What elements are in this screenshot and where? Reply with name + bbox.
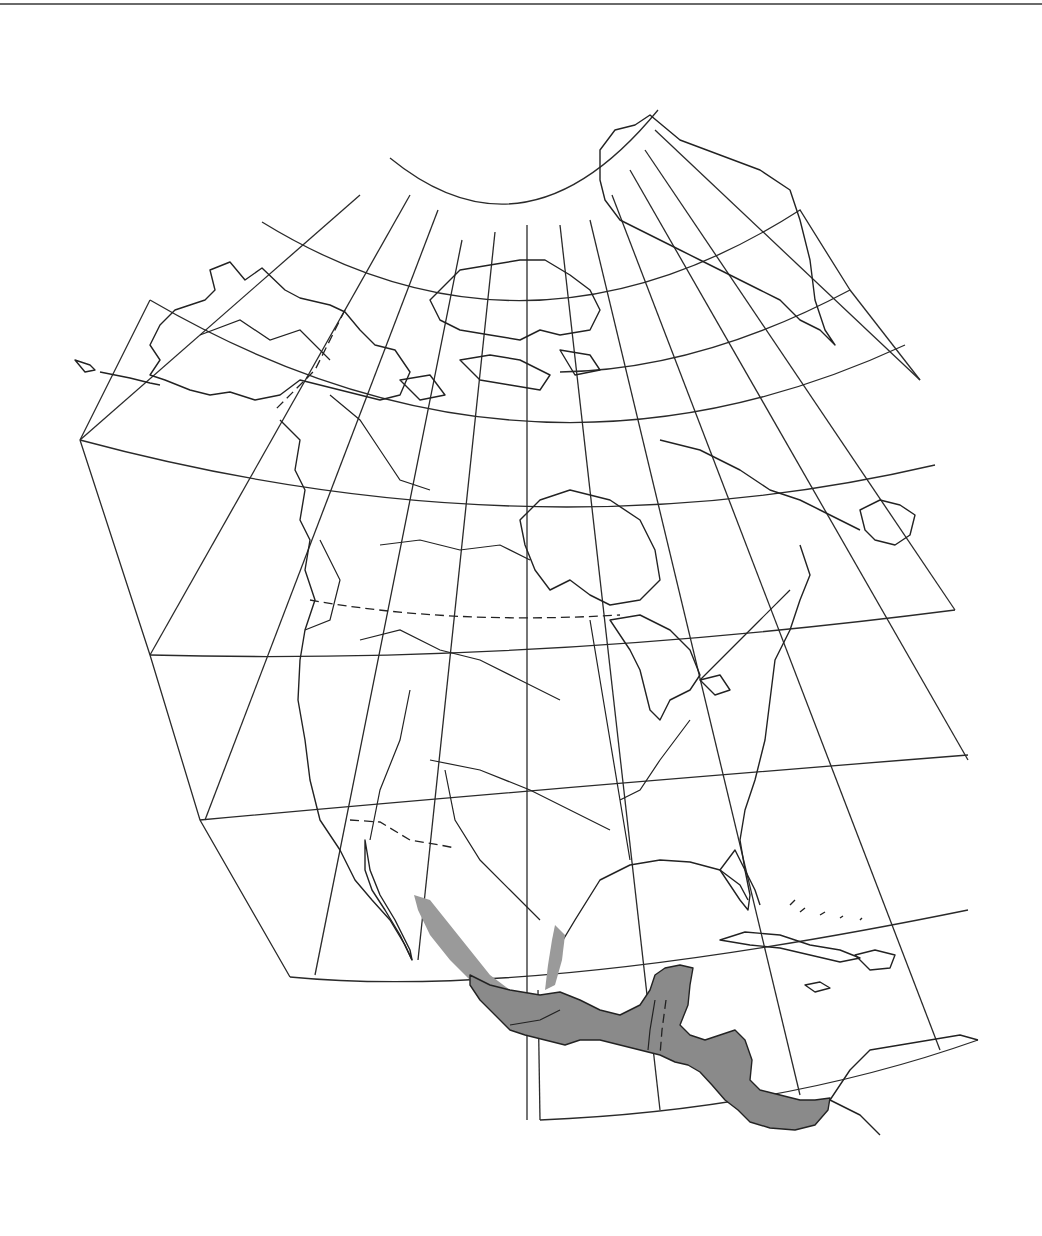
meridian bbox=[150, 195, 410, 655]
greenland bbox=[600, 115, 835, 345]
alaska-coast bbox=[150, 262, 410, 400]
meridian bbox=[315, 240, 462, 975]
meridian bbox=[80, 195, 360, 440]
us-canada-border bbox=[310, 600, 620, 618]
arctic-islands bbox=[400, 350, 600, 400]
range-west-coast-strip bbox=[414, 895, 510, 990]
st-lawrence-river bbox=[700, 590, 790, 680]
parallel-arc bbox=[200, 755, 968, 820]
mississippi-river bbox=[590, 620, 630, 860]
labrador-coast bbox=[660, 440, 860, 530]
frame-edge bbox=[80, 440, 290, 977]
missouri-river bbox=[360, 630, 560, 700]
alaska-canada-border bbox=[275, 310, 345, 410]
map-canvas bbox=[0, 0, 1042, 1236]
south-america-coast bbox=[830, 1035, 978, 1100]
saskatchewan-river bbox=[380, 540, 530, 560]
yukon-river bbox=[200, 320, 330, 360]
atlantic-coast bbox=[740, 545, 810, 905]
meridian bbox=[612, 195, 940, 1050]
bahamas bbox=[790, 900, 862, 920]
meridian bbox=[655, 130, 920, 380]
frame-edge bbox=[80, 300, 150, 440]
shaded-range bbox=[414, 895, 830, 1130]
meridian bbox=[418, 232, 495, 960]
hispaniola bbox=[855, 950, 895, 970]
florida bbox=[720, 850, 750, 910]
parallel-arc bbox=[390, 110, 658, 204]
meridian bbox=[630, 170, 968, 760]
ohio-river bbox=[620, 720, 690, 800]
south-america-river bbox=[830, 1100, 880, 1135]
arkansas-river bbox=[430, 760, 610, 830]
rio-grande bbox=[445, 770, 540, 920]
jamaica bbox=[805, 982, 830, 992]
range-gulf-strip bbox=[545, 925, 565, 990]
graticule bbox=[80, 110, 978, 1120]
gulf-coast bbox=[560, 860, 748, 945]
parallel-arc bbox=[80, 440, 935, 507]
meridian bbox=[560, 225, 660, 1110]
meridian bbox=[590, 220, 800, 1095]
colorado-river bbox=[370, 690, 410, 840]
range-mexico-central-america bbox=[470, 965, 830, 1130]
borders bbox=[275, 310, 620, 848]
pacific-coast bbox=[280, 420, 412, 960]
meridian bbox=[205, 210, 438, 820]
cuba bbox=[720, 932, 860, 962]
frame-edge bbox=[850, 290, 920, 380]
